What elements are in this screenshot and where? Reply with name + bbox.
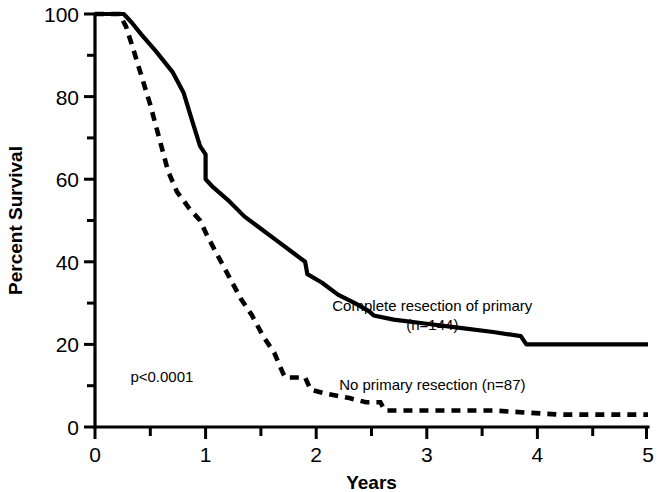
x-tick-label: 2 bbox=[310, 443, 322, 466]
series-curve-2 bbox=[95, 14, 648, 415]
series-label-2: No primary resection (n=87) bbox=[339, 376, 525, 393]
y-tick-label: 80 bbox=[56, 86, 79, 109]
x-axis-tick-labels: 012345 bbox=[89, 443, 654, 466]
y-tick-label: 100 bbox=[44, 3, 79, 26]
annotation-p-value: p<0.0001 bbox=[130, 368, 193, 385]
series-sublabel-1: (n=144) bbox=[406, 316, 458, 333]
y-tick-label: 0 bbox=[67, 416, 79, 439]
kaplan-meier-chart: 020406080100 012345 Complete resection o… bbox=[0, 0, 658, 492]
x-axis-title: Years bbox=[346, 472, 397, 492]
series-curve-1 bbox=[95, 14, 648, 344]
y-axis-title: Percent Survival bbox=[5, 146, 26, 295]
y-tick-label: 20 bbox=[56, 333, 79, 356]
x-tick-label: 1 bbox=[200, 443, 212, 466]
x-tick-label: 0 bbox=[89, 443, 101, 466]
y-axis-tick-labels: 020406080100 bbox=[44, 3, 79, 439]
annotations-group: p<0.0001 bbox=[130, 368, 193, 385]
y-tick-label: 40 bbox=[56, 251, 79, 274]
y-axis-ticks bbox=[84, 14, 95, 427]
x-tick-label: 3 bbox=[421, 443, 433, 466]
survival-curve-figure: 020406080100 012345 Complete resection o… bbox=[0, 0, 658, 492]
y-tick-label: 60 bbox=[56, 168, 79, 191]
data-series-group bbox=[95, 14, 648, 415]
axes-group bbox=[95, 14, 648, 427]
x-tick-label: 4 bbox=[532, 443, 544, 466]
x-axis-ticks bbox=[95, 427, 647, 439]
series-labels-group: Complete resection of primary(n=144)No p… bbox=[332, 297, 533, 392]
x-tick-label: 5 bbox=[642, 443, 654, 466]
series-label-1: Complete resection of primary bbox=[332, 297, 533, 314]
